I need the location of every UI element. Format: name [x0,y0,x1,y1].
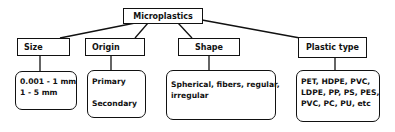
root-label: Microplastics [133,12,193,21]
category-label: Shape [195,43,223,52]
root-node: Microplastics [123,8,203,24]
category-size: Size [17,38,70,56]
category-origin: Origin [85,38,145,56]
detail-line: Primary [92,76,141,87]
connector-root-shape [178,23,192,38]
detail-shape: Spherical, fibers, regular, irregular [166,70,276,120]
detail-line: Spherical, fibers, regular, [171,79,271,90]
category-shape: Shape [178,38,240,56]
detail-plastic-type: PET, HDPE, PVC, LDPE, PP, PS, PES, PVC, … [296,70,380,122]
detail-size: 0.001 - 1 mm 1 - 5 mm [15,71,77,110]
detail-line: PVC, PC, PU, etc [301,98,375,109]
detail-line: LDPE, PP, PS, PES, [301,87,375,98]
category-label: Plastic type [306,43,359,52]
detail-line: 1 - 5 mm [20,87,72,98]
detail-line [92,87,141,98]
detail-line: PET, HDPE, PVC, [301,76,375,87]
category-label: Origin [92,43,120,52]
category-plastic-type: Plastic type [298,37,367,58]
detail-line: Secondary [92,98,141,109]
connector-root-size [60,23,135,38]
detail-origin: Primary Secondary [87,70,146,118]
detail-line: 0.001 - 1 mm [20,76,72,87]
category-label: Size [24,43,43,52]
detail-line: irregular [171,90,271,101]
connector-root-origin [135,23,148,38]
connector-root-plastic [202,20,300,38]
